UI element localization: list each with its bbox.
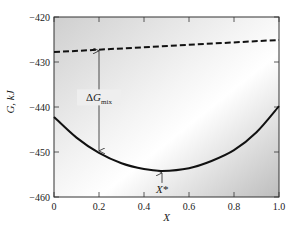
x-star-label: X* bbox=[155, 183, 169, 195]
x-tick-label: 0.6 bbox=[183, 201, 196, 212]
y-tick-label: −430 bbox=[29, 57, 50, 68]
y-tick-label: −420 bbox=[29, 12, 50, 23]
y-tick-label: −440 bbox=[29, 102, 50, 113]
y-tick-label: −450 bbox=[29, 147, 50, 158]
x-tick-label: 0 bbox=[52, 201, 57, 212]
chart: 00.20.40.60.81.0−420−430−440−450−460 ΔGm… bbox=[0, 0, 297, 234]
y-axis-label: G, kJ bbox=[4, 89, 16, 113]
x-tick-label: 0.4 bbox=[138, 201, 151, 212]
y-tick-label: −460 bbox=[29, 192, 50, 203]
x-tick-label: 0.2 bbox=[93, 201, 106, 212]
x-tick-label: 0.8 bbox=[228, 201, 241, 212]
x-tick-label: 1.0 bbox=[273, 201, 286, 212]
x-axis-label: X bbox=[162, 211, 171, 223]
